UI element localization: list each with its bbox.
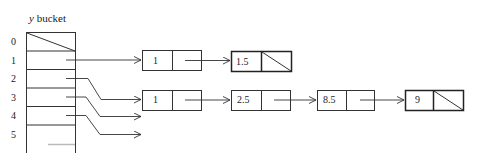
node-value: 8.5	[323, 95, 336, 105]
list-node	[143, 91, 202, 111]
diagram-lines	[0, 0, 478, 159]
node-value: 1	[153, 95, 158, 105]
null-slash-icon	[262, 52, 291, 71]
node-value: 1.5	[236, 57, 249, 67]
bucket-array	[26, 32, 76, 153]
pointer-bucket-2	[66, 79, 141, 100]
null-slash-icon	[434, 91, 463, 110]
node-value: 9	[415, 95, 420, 105]
null-slash-icon	[27, 33, 75, 51]
node-value: 1	[153, 56, 158, 66]
pointer-bucket-4	[66, 116, 141, 135]
bucket-sort-diagram: y bucket 0 1 2 3 4 5	[0, 0, 478, 159]
node-value: 2.5	[237, 95, 250, 105]
